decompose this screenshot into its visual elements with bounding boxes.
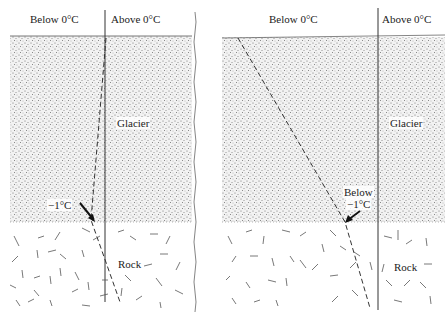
left-isotherm-label: −1°C bbox=[47, 199, 72, 211]
panel-divider bbox=[194, 12, 196, 312]
right-glacier-ice bbox=[222, 37, 445, 222]
right-above-zero-label: Above 0°C bbox=[382, 13, 431, 25]
left-above-zero-label: Above 0°C bbox=[111, 13, 160, 25]
right-isotherm-label-line2: −1°C bbox=[346, 198, 371, 210]
right-rock-label: Rock bbox=[393, 261, 418, 273]
left-glacier-label: Glacier bbox=[116, 117, 150, 129]
left-panel bbox=[10, 10, 192, 308]
left-rock-label: Rock bbox=[117, 258, 142, 270]
right-isotherm-label-line1: Below bbox=[343, 186, 374, 198]
right-glacier-label: Glacier bbox=[389, 117, 423, 129]
diagram-canvas bbox=[0, 0, 445, 327]
left-rock-fragments bbox=[10, 228, 183, 308]
right-below-zero-label: Below 0°C bbox=[269, 13, 318, 25]
left-glacier-ice bbox=[10, 36, 192, 222]
left-below-zero-label: Below 0°C bbox=[30, 13, 79, 25]
